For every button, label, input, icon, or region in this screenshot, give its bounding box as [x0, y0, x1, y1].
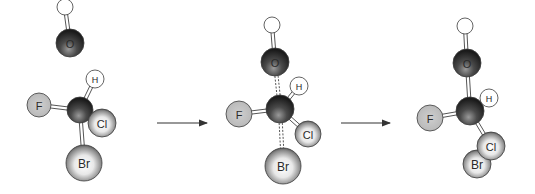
- atom-f: F: [226, 101, 252, 127]
- atom-cl: Cl: [88, 109, 116, 137]
- transition-state-bonds: [239, 25, 309, 166]
- atom-o: O: [56, 29, 84, 57]
- reactants-atoms: OHFClBr: [27, 0, 116, 181]
- atom-cl: Cl: [295, 121, 321, 147]
- atom-carbon: [266, 95, 294, 123]
- atom-label: O: [463, 58, 472, 70]
- atom-label: F: [36, 100, 43, 112]
- atom-label: Br: [78, 157, 90, 171]
- atom-o: O: [261, 48, 289, 76]
- atom-label: H: [296, 82, 303, 92]
- products-bonds: [430, 26, 493, 147]
- atom-hydroxyl-h: [57, 0, 73, 15]
- products-atoms: OHFBrCl: [417, 18, 505, 178]
- atom-br: Br: [265, 148, 301, 184]
- atom-label: H: [486, 94, 493, 104]
- atom-o: O: [453, 49, 481, 77]
- atom-label: Cl: [303, 129, 313, 141]
- diagram-canvas: OHFClBrOHFClBrOHFBrCl: [0, 0, 535, 194]
- atom-h: H: [86, 70, 104, 88]
- bonds: OHFClBrOHFClBrOHFBrCl: [27, 0, 505, 184]
- atom-label: Cl: [486, 141, 496, 153]
- atom-hydroxyl-h: [457, 18, 473, 34]
- atom-carbon: [456, 97, 484, 125]
- atom-label: Br: [277, 160, 289, 174]
- sn2-reaction-diagram: OHFClBrOHFClBrOHFBrCl: [0, 0, 535, 194]
- atom-f: F: [27, 93, 51, 117]
- panel-products: OHFBrCl: [417, 18, 505, 178]
- atom-label: Cl: [97, 118, 107, 130]
- transition-state-atoms: OHFClBr: [226, 17, 321, 184]
- atom-hydroxyl-h: [264, 17, 280, 33]
- atom-label: F: [427, 113, 434, 125]
- atom-label: F: [236, 109, 243, 121]
- atom-label: O: [271, 57, 280, 69]
- atom-br: Br: [66, 145, 102, 181]
- atom-label: O: [66, 38, 75, 50]
- atom-label: Br: [471, 158, 483, 172]
- atom-h: H: [480, 89, 498, 107]
- atom-h: H: [290, 77, 308, 95]
- panel-transition-state: OHFClBr: [226, 17, 321, 184]
- atom-f: F: [417, 105, 443, 131]
- panel-reactants: OHFClBr: [27, 0, 116, 181]
- atom-label: H: [92, 75, 99, 85]
- atom-cl: Cl: [477, 132, 505, 160]
